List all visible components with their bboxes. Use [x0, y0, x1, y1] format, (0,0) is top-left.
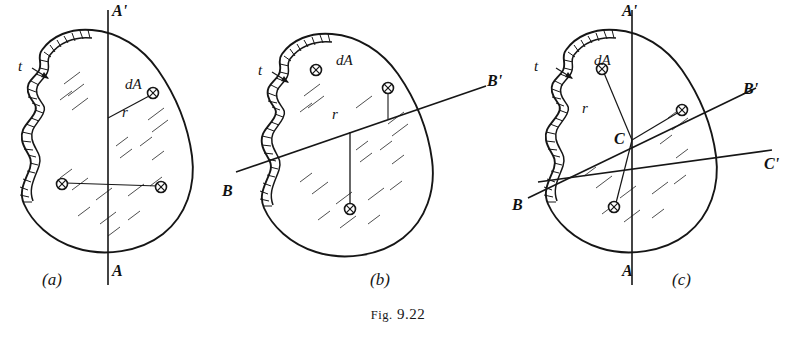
radius-label-b: r — [332, 106, 338, 123]
area-element-label-b: dA — [336, 52, 353, 69]
area-element-marker-b — [311, 65, 322, 76]
chord-marker-right-a — [156, 182, 167, 193]
area-element-label-a: dA — [125, 76, 142, 93]
figure-container: t dA r A' A (a) — [0, 0, 796, 337]
axis-top-label-a: A' — [112, 2, 127, 20]
axis-right2-label-c: C' — [764, 155, 779, 173]
right-marker-c — [677, 105, 688, 116]
axis-top-label-c: A' — [622, 2, 637, 20]
thickness-label-b: t — [258, 62, 262, 79]
panel-label-c: (c) — [672, 270, 691, 290]
axis-right-label-b: B' — [487, 72, 502, 90]
thickness-label-a: t — [18, 58, 22, 75]
panel-a-drawing — [0, 0, 260, 300]
lower-marker-c — [609, 202, 620, 213]
panel-label-a: (a) — [42, 270, 62, 290]
area-element-label-c: dA — [594, 52, 611, 69]
caption-prefix: Fig. — [371, 308, 393, 322]
panel-label-b: (b) — [370, 270, 390, 290]
axis-bottom-label-c: A — [622, 262, 633, 280]
axis-right-label-c: B' — [743, 80, 758, 98]
thickness-label-c: t — [534, 58, 538, 75]
axis-bottom-label-a: A — [112, 262, 123, 280]
caption-number: 9.22 — [397, 306, 425, 322]
area-element-marker-a — [148, 88, 159, 99]
axis-left-label-b: B — [222, 182, 233, 200]
upper-marker-b — [383, 83, 394, 94]
radius-label-a: r — [122, 104, 128, 121]
axis-left-label-c: B — [512, 196, 523, 214]
centroid-label-c: C — [614, 130, 625, 148]
chord-marker-left-a — [57, 179, 68, 190]
radius-label-c: r — [582, 100, 588, 117]
figure-caption: Fig. 9.22 — [0, 306, 796, 323]
lower-marker-b — [345, 204, 356, 215]
panel-c-drawing — [516, 0, 796, 300]
panel-b-drawing — [228, 0, 498, 300]
